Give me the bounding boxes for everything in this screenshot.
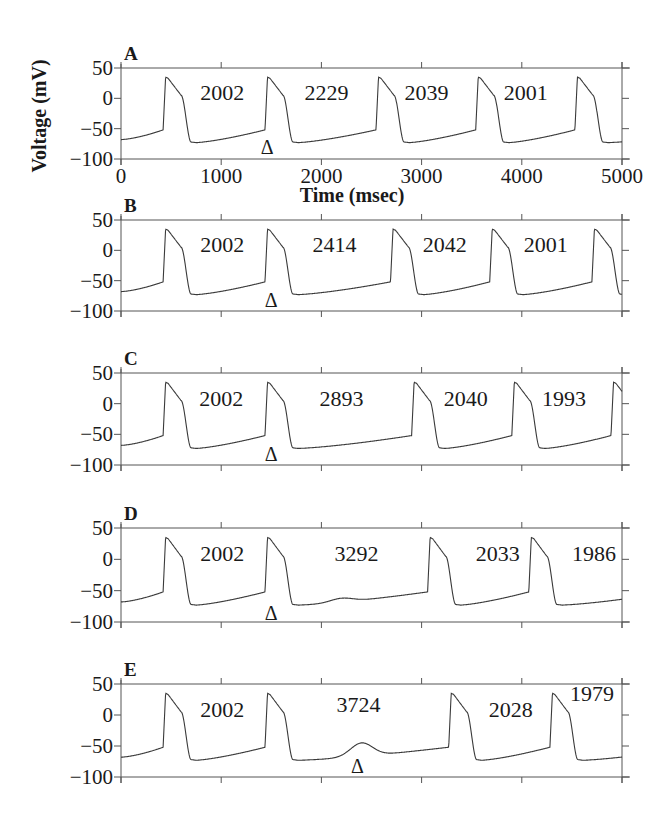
stimulus-delta-marker: Δ — [265, 443, 278, 465]
panel-d: 500−50−100D2002329220331986Δ — [70, 503, 630, 634]
interval-label: 2414 — [312, 232, 356, 257]
interval-label: 2002 — [199, 386, 243, 411]
stimulus-delta-marker: Δ — [265, 289, 278, 311]
interval-label: 3292 — [334, 541, 378, 566]
interval-label: 2042 — [423, 232, 467, 257]
stimulus-delta-marker: Δ — [265, 602, 278, 624]
interval-label: 3724 — [336, 692, 380, 717]
y-tick-label: −100 — [70, 299, 113, 323]
interval-label: 2229 — [304, 80, 348, 105]
y-tick-label: −100 — [70, 453, 113, 477]
panel-e: 500−50−100E2002372420281979Δ — [70, 659, 630, 789]
stimulus-delta-marker: Δ — [261, 136, 274, 158]
interval-label: 2033 — [476, 541, 520, 566]
y-tick-label: −50 — [80, 269, 113, 293]
y-tick-label: −100 — [70, 610, 113, 634]
y-tick-label: 50 — [92, 672, 113, 696]
panel-c: 500−50−100C2002289320401993Δ — [70, 348, 630, 477]
interval-label: 2002 — [200, 232, 244, 257]
action-potential-figure: 500−50−100010002000300040005000A20022229… — [0, 0, 668, 829]
panel-label: A — [124, 43, 138, 64]
y-tick-label: 0 — [103, 547, 114, 571]
x-tick-label: 5000 — [601, 164, 643, 188]
interval-label: 2001 — [524, 232, 568, 257]
panel-b: 500−50−100B2002241420422001Δ — [70, 195, 630, 323]
y-tick-label: −50 — [80, 422, 113, 446]
y-tick-label: 0 — [103, 392, 114, 416]
panel-label: E — [124, 659, 137, 680]
y-axis-label: Voltage (mV) — [28, 59, 51, 172]
y-tick-label: −100 — [70, 765, 113, 789]
y-tick-label: −50 — [80, 734, 113, 758]
y-tick-label: 0 — [103, 703, 114, 727]
x-tick-label: 3000 — [401, 164, 443, 188]
y-tick-label: 50 — [92, 208, 113, 232]
y-tick-label: 50 — [92, 56, 113, 80]
y-tick-label: 0 — [103, 238, 114, 262]
interval-label: 2028 — [489, 697, 533, 722]
panel-a: 500−50−100010002000300040005000A20022229… — [70, 43, 643, 188]
stimulus-delta-marker: Δ — [351, 755, 364, 777]
panel-label: B — [124, 195, 137, 216]
y-tick-label: 0 — [103, 86, 114, 110]
interval-label: 2002 — [200, 541, 244, 566]
interval-label: 1986 — [572, 541, 616, 566]
interval-label: 2893 — [319, 386, 363, 411]
interval-label: 1979 — [570, 681, 614, 706]
interval-label: 2001 — [504, 80, 548, 105]
panel-label: D — [124, 503, 138, 524]
interval-label: 2002 — [200, 697, 244, 722]
x-axis-label: Time (msec) — [300, 184, 405, 207]
x-tick-label: 0 — [116, 164, 127, 188]
interval-label: 1993 — [542, 386, 586, 411]
x-tick-label: 4000 — [501, 164, 543, 188]
panel-label: C — [124, 348, 138, 369]
y-tick-label: −50 — [80, 117, 113, 141]
y-tick-label: 50 — [92, 361, 113, 385]
interval-label: 2002 — [200, 80, 244, 105]
interval-label: 2040 — [444, 386, 488, 411]
interval-label: 2039 — [405, 80, 449, 105]
y-tick-label: −100 — [70, 147, 113, 171]
panels-group: 500−50−100010002000300040005000A20022229… — [70, 43, 643, 789]
y-tick-label: −50 — [80, 579, 113, 603]
x-tick-label: 1000 — [200, 164, 242, 188]
y-tick-label: 50 — [92, 516, 113, 540]
